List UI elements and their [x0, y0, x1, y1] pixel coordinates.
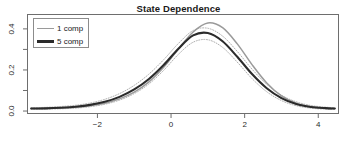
legend-item: 1 comp	[37, 22, 83, 35]
y-tick-label: 0.2	[6, 63, 18, 77]
y-tick-label: 0.4	[6, 22, 18, 36]
legend-item: 5 comp	[37, 35, 83, 48]
y-tick-label: 0.0	[6, 104, 18, 118]
legend-line-swatch	[37, 40, 54, 42]
x-tick-label: 4	[303, 120, 333, 129]
x-tick-label: −2	[82, 120, 112, 129]
legend-line-swatch	[37, 28, 54, 30]
legend-label: 5 comp	[57, 38, 83, 46]
legend-label: 1 comp	[57, 25, 83, 33]
x-tick-label: 2	[230, 120, 260, 129]
chart-legend: 1 comp5 comp	[33, 18, 89, 48]
chart-container: State Dependence 0.00.20.4 −2024 1 comp5…	[0, 0, 357, 141]
x-tick-label: 0	[156, 120, 186, 129]
